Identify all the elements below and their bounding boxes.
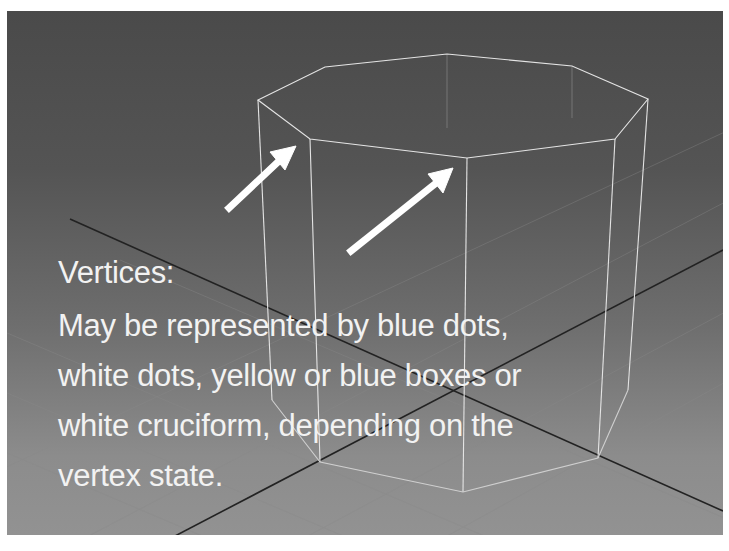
caption-line-1: May be represented by blue dots, — [58, 301, 658, 351]
caption-line-4: vertex state. — [58, 451, 658, 501]
caption-line-2: white dots, yellow or blue boxes or — [58, 351, 658, 401]
vertices-caption: Vertices: May be represented by blue dot… — [58, 248, 658, 501]
caption-line-3: white cruciform, depending on the — [58, 401, 658, 451]
top-face-outline — [258, 54, 648, 158]
arrow-right-icon — [351, 168, 453, 251]
caption-title: Vertices: — [58, 248, 658, 298]
